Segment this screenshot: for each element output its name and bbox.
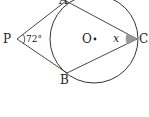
- angle-c-shaded: [126, 34, 137, 44]
- chord-ac: [66, 1, 137, 39]
- label-c: C: [139, 32, 148, 46]
- label-b: B: [60, 73, 69, 87]
- label-angle-x: x: [113, 32, 120, 45]
- tangent-pb: [17, 39, 67, 73]
- chord-bc: [67, 39, 137, 73]
- label-angle-p: 72°: [26, 34, 42, 44]
- label-o: O: [82, 32, 92, 46]
- center-dot: [94, 38, 97, 41]
- label-p: P: [3, 32, 11, 46]
- label-a: A: [58, 0, 68, 7]
- geometry-diagram: P A B C O 72° x: [0, 0, 149, 117]
- angle-p-arc: [23, 34, 25, 44]
